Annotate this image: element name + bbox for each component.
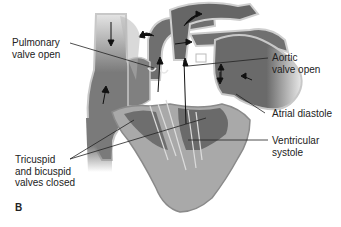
label-av-valves-closed: Tricuspid and bicuspid valves closed bbox=[15, 154, 75, 189]
label-atrial-diastole: Atrial diastole bbox=[272, 108, 332, 120]
panel-label: B bbox=[15, 202, 22, 213]
label-aortic-valve-open: Aortic valve open bbox=[272, 52, 320, 75]
label-ventricular-systole: Ventricular systole bbox=[272, 135, 319, 158]
inferior-vena-cava bbox=[86, 118, 112, 172]
label-pulmonary-valve-open: Pulmonary valve open bbox=[12, 37, 60, 60]
heart-diagram: Pulmonary valve open Aortic valve open A… bbox=[0, 0, 341, 227]
aortic-valve bbox=[196, 54, 206, 62]
